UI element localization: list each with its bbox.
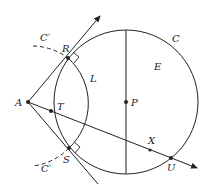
- label-u: U: [167, 162, 176, 173]
- label-s: S: [63, 154, 70, 165]
- label-t: T: [57, 101, 65, 112]
- right-angle-mark-r: [73, 52, 79, 63]
- right-angle-mark-s: [74, 142, 80, 153]
- label-c-prime-top: C′: [40, 32, 51, 43]
- point-p: [124, 100, 128, 104]
- label-c: C: [172, 33, 180, 44]
- point-u: [169, 156, 173, 160]
- label-l: L: [89, 73, 97, 84]
- point-t: [49, 109, 53, 113]
- tangent-line-ar: [28, 16, 100, 102]
- label-r: R: [61, 43, 70, 54]
- point-a: [26, 100, 30, 104]
- point-x: [148, 148, 151, 151]
- point-s: [67, 146, 71, 150]
- point-r: [66, 56, 70, 60]
- geometry-diagram: A R S T P X U L E C C′ C′: [0, 0, 212, 192]
- label-p: P: [130, 97, 138, 108]
- label-c-prime-bottom: C′: [41, 163, 52, 174]
- label-a: A: [14, 97, 22, 108]
- circle-c-prime-solid-arc: [68, 58, 88, 148]
- label-x: X: [147, 135, 156, 146]
- label-e: E: [153, 61, 162, 72]
- diagram-canvas: A R S T P X U L E C C′ C′: [0, 0, 212, 192]
